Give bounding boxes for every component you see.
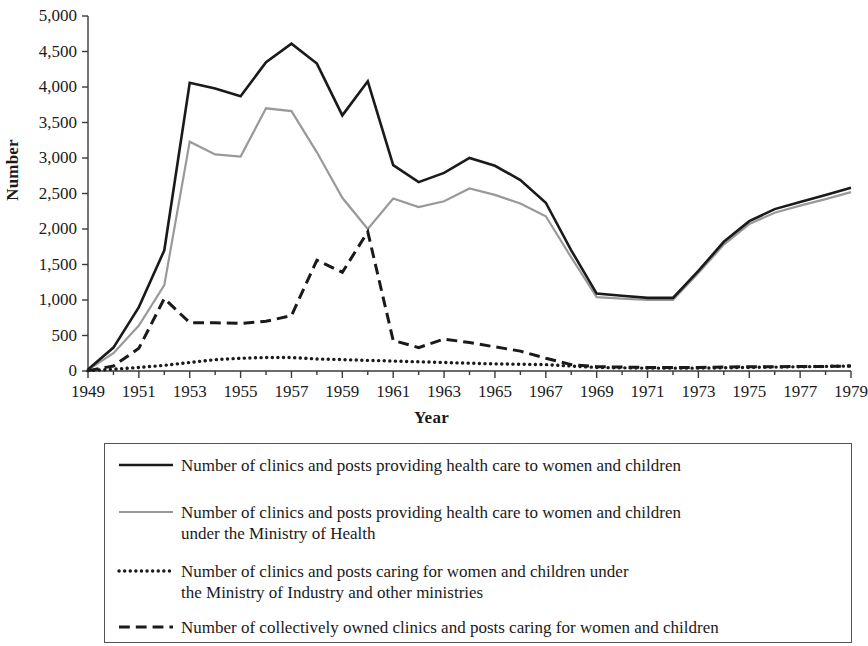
x-tick-label: 1955: [224, 382, 258, 402]
legend-label: Number of clinics and posts providing he…: [181, 454, 681, 476]
x-tick-label: 1961: [376, 382, 410, 402]
y-tick-label: 0: [0, 361, 77, 381]
x-tick-label: 1963: [427, 382, 461, 402]
series-line-collectively_owned: [88, 232, 851, 371]
legend-line-swatch-solid: [117, 501, 175, 521]
series-line-ministry_of_health: [88, 108, 851, 370]
legend-label-line1: Number of clinics and posts providing he…: [181, 456, 681, 475]
line-chart-plot: [0, 0, 863, 432]
legend-item-ministry_of_health: Number of clinics and posts providing he…: [105, 501, 851, 544]
y-tick-label: 500: [0, 326, 77, 346]
x-tick-label: 1953: [173, 382, 207, 402]
x-tick-label: 1969: [580, 382, 614, 402]
x-tick-label: 1951: [122, 382, 156, 402]
x-tick-label: 1975: [732, 382, 766, 402]
legend-label-line2: the Ministry of Industry and other minis…: [181, 582, 629, 603]
x-tick-label: 1967: [529, 382, 563, 402]
legend-label: Number of clinics and posts providing he…: [181, 501, 681, 544]
legend-label-line1: Number of clinics and posts caring for w…: [181, 562, 629, 581]
x-tick-label: 1977: [783, 382, 817, 402]
x-tick-label: 1957: [274, 382, 308, 402]
x-tick-label: 1959: [325, 382, 359, 402]
y-tick-label: 1,000: [0, 290, 77, 310]
legend-label-line1: Number of clinics and posts providing he…: [181, 503, 681, 522]
x-axis-title: Year: [0, 408, 863, 428]
legend-label-line2: under the Ministry of Health: [181, 523, 681, 544]
legend-label-line1: Number of collectively owned clinics and…: [181, 618, 719, 637]
legend-line-swatch-solid: [117, 454, 175, 474]
x-tick-label: 1971: [631, 382, 665, 402]
series-line-total: [88, 44, 851, 370]
x-axis-ticks: [88, 371, 851, 378]
y-axis-ticks: [82, 16, 88, 371]
x-tick-label: 1965: [478, 382, 512, 402]
y-tick-label: 5,000: [0, 6, 77, 26]
y-tick-label: 2,500: [0, 184, 77, 204]
legend-item-industry_and_other_ministries: Number of clinics and posts caring for w…: [105, 560, 851, 603]
plot-area: Number Year 05001,0001,5002,0002,5003,00…: [0, 0, 863, 432]
legend-item-collectively_owned: Number of collectively owned clinics and…: [105, 616, 851, 638]
legend-label: Number of collectively owned clinics and…: [181, 616, 719, 638]
x-tick-label: 1979: [834, 382, 868, 402]
y-tick-label: 4,500: [0, 42, 77, 62]
y-tick-label: 2,000: [0, 219, 77, 239]
x-tick-label: 1973: [681, 382, 715, 402]
y-tick-label: 4,000: [0, 77, 77, 97]
chart-axes: [88, 16, 851, 371]
legend-line-swatch-dotted: [117, 560, 175, 580]
chart-legend: Number of clinics and posts providing he…: [104, 443, 852, 643]
y-tick-label: 3,000: [0, 148, 77, 168]
legend-line-swatch-dashed: [117, 616, 175, 636]
legend-item-total: Number of clinics and posts providing he…: [105, 454, 851, 476]
y-tick-label: 3,500: [0, 113, 77, 133]
legend-label: Number of clinics and posts caring for w…: [181, 560, 629, 603]
x-tick-label: 1949: [71, 382, 105, 402]
y-tick-label: 1,500: [0, 255, 77, 275]
series-line-industry_and_other_ministries: [88, 358, 851, 371]
